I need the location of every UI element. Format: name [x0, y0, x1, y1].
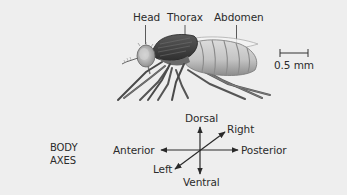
body-axes-caption-line2: AXES	[50, 155, 76, 167]
axis-label-right: Right	[227, 123, 254, 135]
axis-label-dorsal: Dorsal	[185, 112, 218, 124]
axis-label-left: Left	[153, 163, 172, 175]
fruit-fly-body-axes-figure: Head Thorax Abdomen 0.5 mm BODY AXES Dor…	[0, 0, 347, 195]
scale-bar-label: 0.5 mm	[274, 59, 314, 71]
axis-label-ventral: Ventral	[183, 176, 220, 188]
scale-bar	[280, 49, 308, 57]
label-abdomen: Abdomen	[214, 11, 264, 23]
label-head: Head	[133, 11, 160, 23]
body-axes-caption-line1: BODY	[50, 142, 77, 154]
axis-label-posterior: Posterior	[241, 144, 287, 156]
label-thorax: Thorax	[167, 11, 203, 23]
axis-label-anterior: Anterior	[113, 144, 155, 156]
